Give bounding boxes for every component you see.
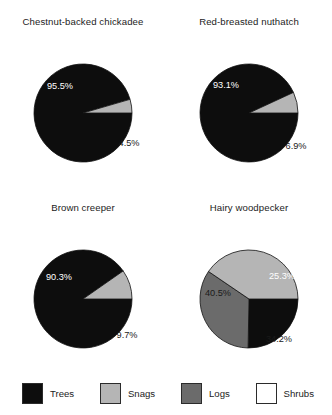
pie-chart-2: 90.3%9.7% — [0, 216, 166, 326]
legend-label-trees: Trees — [50, 388, 74, 399]
pie-svg: 93.1%6.9% — [166, 30, 332, 196]
slice-value-label: 95.5% — [47, 81, 73, 91]
slice-value-label: 93.1% — [213, 80, 239, 90]
slice-value-label: 40.5% — [205, 288, 231, 298]
panel-title: Red-breasted nuthatch — [166, 16, 332, 27]
legend-item-shrubs: Shrubs — [256, 383, 314, 404]
slice-value-label: 34.2% — [266, 334, 292, 344]
slice-value-label: 6.9% — [286, 141, 307, 151]
legend-label-snags: Snags — [128, 388, 155, 399]
pie-svg: 25.3%34.2%40.5% — [166, 216, 332, 382]
pie-panel-brown-creeper: Brown creeper 90.3%9.7% — [0, 194, 166, 380]
pie-chart-1: 93.1%6.9% — [166, 30, 332, 140]
panel-title: Brown creeper — [0, 202, 166, 213]
legend-swatch-logs — [181, 383, 202, 404]
slice-value-label: 9.7% — [117, 330, 138, 340]
slice-value-label: 4.5% — [119, 138, 140, 148]
pie-svg: 95.5%4.5% — [0, 30, 166, 196]
pie-panel-red-breasted-nuthatch: Red-breasted nuthatch 93.1%6.9% — [166, 8, 332, 194]
legend-item-logs: Logs — [181, 383, 230, 404]
legend-swatch-shrubs — [256, 383, 277, 404]
pie-panel-chestnut-backed-chickadee: Chestnut-backed chickadee 95.5%4.5% — [0, 8, 166, 194]
legend-label-shrubs: Shrubs — [284, 388, 314, 399]
legend-swatch-trees — [22, 383, 43, 404]
pie-panels-grid: Chestnut-backed chickadee 95.5%4.5% Red-… — [0, 0, 332, 372]
chart-legend: Trees Snags Logs Shrubs — [0, 374, 332, 415]
panel-title: Hairy woodpecker — [166, 202, 332, 213]
legend-label-logs: Logs — [209, 388, 230, 399]
panel-title: Chestnut-backed chickadee — [0, 16, 166, 27]
pie-panel-hairy-woodpecker: Hairy woodpecker 25.3%34.2%40.5% — [166, 194, 332, 380]
pie-chart-0: 95.5%4.5% — [0, 30, 166, 140]
slice-value-label: 90.3% — [46, 272, 72, 282]
legend-row: Trees Snags Logs Shrubs — [22, 378, 314, 408]
pie-svg: 90.3%9.7% — [0, 216, 166, 382]
slice-value-label: 25.3% — [269, 271, 295, 281]
legend-item-trees: Trees — [22, 383, 74, 404]
pie-chart-3: 25.3%34.2%40.5% — [166, 216, 332, 326]
legend-swatch-snags — [100, 383, 121, 404]
pie-chart-figure: Chestnut-backed chickadee 95.5%4.5% Red-… — [0, 0, 332, 415]
legend-item-snags: Snags — [100, 383, 155, 404]
